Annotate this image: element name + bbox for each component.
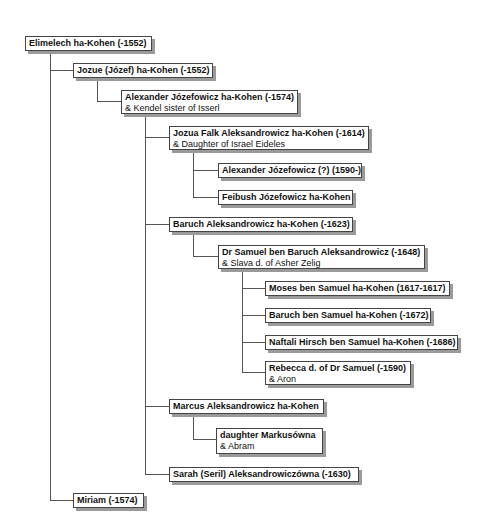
- person-name: Dr Samuel ben Baruch Aleksandrowicz (-16…: [222, 247, 420, 258]
- person-node-baruch-ben-samuel[interactable]: Baruch ben Samuel ha-Kohen (-1672): [265, 308, 431, 323]
- person-node-marcus[interactable]: Marcus Aleksandrowicz ha-Kohen: [169, 399, 324, 414]
- connector-line: [50, 51, 51, 501]
- person-node-baruch-aleksandrowicz[interactable]: Baruch Aleksandrowicz ha-Kohen (-1623): [169, 217, 353, 232]
- connector-line: [50, 70, 73, 71]
- spouse-text: & Abram: [220, 441, 318, 452]
- spouse-text: & Daughter of Israel Eideles: [173, 139, 364, 150]
- person-name: Elimelech ha-Kohen (-1552): [29, 38, 147, 49]
- spouse-text: & Slava d. of Asher Zelig: [222, 258, 420, 269]
- person-node-miriam[interactable]: Miriam (-1574): [73, 493, 144, 508]
- spouse-text: & Kendel sister of Isserl: [125, 103, 293, 114]
- person-node-jozue[interactable]: Jozue (Józef) ha-Kohen (-1552): [73, 63, 213, 78]
- person-name: Miriam (-1574): [77, 495, 139, 506]
- connector-line: [193, 150, 194, 198]
- connector-line: [193, 232, 194, 257]
- person-name: Alexander Józefowicz (?) (1590-): [222, 165, 357, 176]
- person-name: Sarah (Seril) Aleksandrowiczówna (-1630): [173, 469, 354, 480]
- person-node-alexander-jozefowicz-2[interactable]: Alexander Józefowicz (?) (1590-): [218, 163, 362, 178]
- person-name: Rebecca d. of Dr Samuel (-1590): [269, 363, 406, 374]
- spouse-text: & Aron: [269, 374, 406, 385]
- connector-line: [242, 269, 243, 373]
- connector-line: [242, 315, 265, 316]
- person-node-feibush[interactable]: Feibush Józefowicz ha-Kohen: [218, 190, 353, 205]
- person-name: Feibush Józefowicz ha-Kohen: [222, 192, 348, 203]
- person-name: Jozue (Józef) ha-Kohen (-1552): [77, 65, 208, 76]
- person-name: Marcus Aleksandrowicz ha-Kohen: [173, 401, 319, 412]
- connector-line: [193, 256, 218, 257]
- person-node-sarah[interactable]: Sarah (Seril) Aleksandrowiczówna (-1630): [169, 467, 359, 482]
- connector-line: [50, 500, 73, 501]
- person-name: daughter Markusówna: [220, 430, 318, 441]
- person-node-dr-samuel[interactable]: Dr Samuel ben Baruch Aleksandrowicz (-16…: [218, 245, 425, 269]
- person-node-rebecca[interactable]: Rebecca d. of Dr Samuel (-1590)& Aron: [265, 361, 411, 385]
- connector-line: [145, 224, 169, 225]
- connector-line: [193, 414, 194, 440]
- connector-line: [145, 114, 146, 475]
- connector-line: [242, 342, 265, 343]
- connector-line: [145, 474, 169, 475]
- connector-line: [145, 137, 169, 138]
- person-name: Baruch ben Samuel ha-Kohen (-1672): [269, 310, 426, 321]
- person-node-jozua-falk[interactable]: Jozua Falk Aleksandrowicz ha-Kohen (-161…: [169, 126, 369, 150]
- person-name: Alexander Józefowicz ha-Kohen (-1574): [125, 92, 293, 103]
- person-node-moses[interactable]: Moses ben Samuel ha-Kohen (1617-1617): [265, 281, 450, 296]
- person-node-daughter-markusowna[interactable]: daughter Markusówna& Abram: [216, 428, 323, 454]
- connector-line: [145, 406, 169, 407]
- connector-line: [242, 288, 265, 289]
- person-name: Naftali Hirsch ben Samuel ha-Kohen (-168…: [269, 337, 453, 348]
- person-name: Moses ben Samuel ha-Kohen (1617-1617): [269, 283, 445, 294]
- connector-line: [97, 101, 121, 102]
- person-node-naftali[interactable]: Naftali Hirsch ben Samuel ha-Kohen (-168…: [265, 335, 458, 350]
- connector-line: [193, 197, 218, 198]
- connector-line: [193, 439, 216, 440]
- person-node-elimelech[interactable]: Elimelech ha-Kohen (-1552): [25, 36, 152, 51]
- connector-line: [242, 372, 265, 373]
- person-name: Jozua Falk Aleksandrowicz ha-Kohen (-161…: [173, 128, 364, 139]
- connector-line: [193, 170, 218, 171]
- connector-line: [97, 78, 98, 102]
- person-node-alexander[interactable]: Alexander Józefowicz ha-Kohen (-1574)& K…: [121, 90, 298, 114]
- person-name: Baruch Aleksandrowicz ha-Kohen (-1623): [173, 219, 348, 230]
